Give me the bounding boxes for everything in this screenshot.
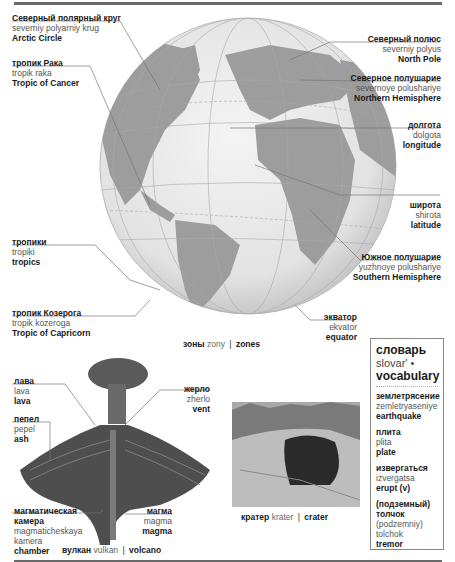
label-tropic-of-capricorn: тропик Козерога tropik kozeroga Tropic o… [12, 308, 90, 338]
label-latitude: широта shirota latitude [410, 200, 441, 230]
vocab-entry: извергаться izvergatsa erupt (v) [376, 463, 438, 493]
vocab-entry: землетрясение zemletryaseniye earthquake [376, 391, 438, 421]
label-magma: магма magma magma [130, 506, 172, 536]
label-vent: жерло zherlo vent [160, 384, 210, 414]
label-equator: экватор ekvator equator [324, 312, 357, 342]
vocab-divider [376, 386, 438, 387]
label-northern-hemisphere: Северное полушарие severnoye polushariye… [351, 73, 441, 103]
vocab-entry: плита plita plate [376, 427, 438, 457]
label-arctic-circle: Северный полярный круг severniy polyarni… [12, 13, 121, 43]
label-tropics: тропики tropiki tropics [12, 237, 46, 267]
zones-caption: зоны zony | zones [183, 339, 260, 349]
vocabulary-box: словарь slovar' • vocabulary землетрясен… [370, 338, 444, 550]
label-southern-hemisphere: Южное полушарие yuzhnoye polushariye Sou… [353, 252, 441, 282]
vocab-title-ru: словарь [376, 344, 438, 357]
volcano-caption: вулкан vulkan | volcano [62, 545, 161, 555]
label-north-pole: Северный полюс severniy polyus North Pol… [368, 34, 441, 64]
label-lava: лава lava lava [14, 376, 34, 406]
vocab-title-en: vocabulary [376, 370, 438, 383]
label-ash: пепел pepel ash [14, 414, 39, 444]
vocab-entry: (подземный) толчок (podzemniy) tolchok t… [376, 499, 438, 549]
label-tropic-of-cancer: тропик Рака tropik raka Tropic of Cancer [12, 58, 79, 88]
label-longitude: долгота dolgota longitude [403, 120, 441, 150]
crater-photo [232, 402, 360, 507]
crater-caption: кратер krater | crater [241, 512, 328, 522]
